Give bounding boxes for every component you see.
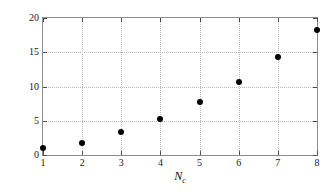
x-axis-tick-label: 8 xyxy=(315,158,320,168)
gridline-horizontal xyxy=(43,52,317,53)
gridline-horizontal xyxy=(43,121,317,122)
y-axis-tick xyxy=(43,155,47,156)
x-axis-title: Nc xyxy=(42,170,318,185)
x-axis-tick-top xyxy=(278,18,279,22)
data-point xyxy=(236,79,242,85)
data-point xyxy=(197,99,203,105)
x-axis-tick xyxy=(278,151,279,155)
y-axis-tick-right xyxy=(313,121,317,122)
y-axis-tick-right xyxy=(313,155,317,156)
gridline-vertical xyxy=(160,18,161,155)
x-axis-tick-label: 5 xyxy=(197,158,202,168)
data-point xyxy=(79,140,85,146)
x-axis-tick-top xyxy=(239,18,240,22)
x-axis-tick-label: 7 xyxy=(275,158,280,168)
x-axis-tick xyxy=(160,151,161,155)
y-axis-tick-label: 10 xyxy=(29,82,39,92)
x-axis-tick xyxy=(43,151,44,155)
x-axis-tick-top xyxy=(200,18,201,22)
x-axis-tick-top xyxy=(317,18,318,22)
y-axis-tick-label: 20 xyxy=(29,13,39,23)
x-axis-tick-label: 4 xyxy=(158,158,163,168)
x-axis-tick-label: 1 xyxy=(41,158,46,168)
gridline-vertical xyxy=(239,18,240,155)
y-axis-tick-label: 5 xyxy=(34,116,39,126)
plot-area: 0510152012345678 xyxy=(42,17,318,156)
x-axis-tick xyxy=(121,151,122,155)
x-axis-tick-top xyxy=(82,18,83,22)
y-axis-tick xyxy=(43,52,47,53)
gridline-horizontal xyxy=(43,87,317,88)
y-axis-tick-right xyxy=(313,52,317,53)
gridline-vertical xyxy=(82,18,83,155)
y-axis-tick-label: 15 xyxy=(29,47,39,57)
x-axis-tick xyxy=(239,151,240,155)
y-axis-tick xyxy=(43,87,47,88)
data-point xyxy=(157,116,163,122)
gridline-vertical xyxy=(278,18,279,155)
x-axis-tick xyxy=(82,151,83,155)
x-axis-tick xyxy=(200,151,201,155)
y-axis-tick-right xyxy=(313,87,317,88)
x-axis-tick-top xyxy=(43,18,44,22)
gridline-vertical xyxy=(200,18,201,155)
data-point xyxy=(40,145,46,151)
y-axis-tick xyxy=(43,121,47,122)
y-axis-tick-label: 0 xyxy=(34,150,39,160)
data-point xyxy=(275,54,281,60)
data-point xyxy=(118,129,124,135)
data-point xyxy=(314,27,320,33)
x-axis-tick-top xyxy=(121,18,122,22)
x-axis-title-subscript: c xyxy=(182,176,186,185)
x-axis-tick-label: 6 xyxy=(236,158,241,168)
x-axis-tick-label: 3 xyxy=(119,158,124,168)
x-axis-tick-label: 2 xyxy=(80,158,85,168)
chart-screenshot: 0510152012345678 Ratio of no. of measure… xyxy=(0,0,333,190)
x-axis-tick-top xyxy=(160,18,161,22)
x-axis-tick xyxy=(317,151,318,155)
